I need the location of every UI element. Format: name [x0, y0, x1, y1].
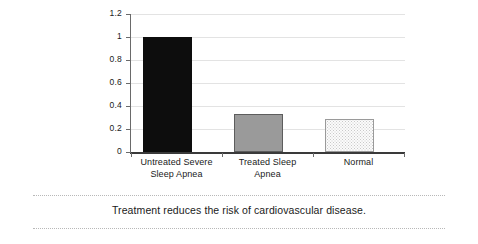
- y-tick-label-1-wrap: 1: [88, 32, 122, 42]
- y-tick-label-0.6-wrap: 0.6: [88, 78, 122, 88]
- category-label-line-2: Apnea: [217, 169, 318, 181]
- x-axis-line: [130, 152, 405, 154]
- figure: 1.2 1 0.8 0.6 0.4 0.2 0 Untreated Severe…: [0, 0, 478, 244]
- category-label-line-2: Sleep Apnea: [126, 169, 227, 181]
- gridline-1.2: [131, 14, 405, 15]
- bar-untreated-severe-sleep-apnea: [143, 37, 192, 152]
- caption-block: Treatment reduces the risk of cardiovasc…: [0, 190, 478, 244]
- y-tick-label-0.8: 0.8: [88, 55, 122, 64]
- caption-text: Treatment reduces the risk of cardiovasc…: [0, 203, 478, 217]
- y-tick-label-0-wrap: 0: [88, 147, 122, 157]
- category-label-line-1: Untreated Severe: [126, 157, 227, 169]
- y-tick-label-0.4: 0.4: [88, 101, 122, 110]
- y-tick-label-0: 0: [88, 147, 122, 156]
- y-tick-label-0.8-wrap: 0.8: [88, 55, 122, 65]
- category-label-untreated-severe-sleep-apnea: Untreated Severe Sleep Apnea: [126, 157, 227, 180]
- y-tick-label-0.2-wrap: 0.2: [88, 124, 122, 134]
- y-tick-mark-0.4: [126, 106, 131, 107]
- y-tick-mark-0.2: [126, 129, 131, 130]
- bar-chart: 1.2 1 0.8 0.6 0.4 0.2 0 Untreated Severe…: [0, 0, 478, 190]
- bar-treated-sleep-apnea: [234, 114, 283, 153]
- y-tick-mark-0.8: [126, 60, 131, 61]
- y-tick-label-1: 1: [88, 32, 122, 41]
- y-tick-mark-1.0: [126, 37, 131, 38]
- category-label-line-1: Normal: [308, 157, 409, 169]
- category-label-normal: Normal: [308, 157, 409, 169]
- bar-normal: [325, 119, 374, 152]
- caption-rule-bottom: [33, 228, 445, 229]
- y-tick-mark-1.2: [126, 14, 131, 15]
- y-tick-label-0.4-wrap: 0.4: [88, 101, 122, 111]
- y-tick-label-0.2: 0.2: [88, 124, 122, 133]
- caption-rule-top: [33, 195, 445, 196]
- category-label-treated-sleep-apnea: Treated Sleep Apnea: [217, 157, 318, 180]
- y-tick-label-1.2-wrap: 1.2: [88, 9, 122, 19]
- y-tick-mark-0.6: [126, 83, 131, 84]
- y-tick-label-0.6: 0.6: [88, 78, 122, 87]
- plot-area: [131, 14, 405, 152]
- category-label-line-1: Treated Sleep: [217, 157, 318, 169]
- y-tick-label-1.2: 1.2: [88, 9, 122, 18]
